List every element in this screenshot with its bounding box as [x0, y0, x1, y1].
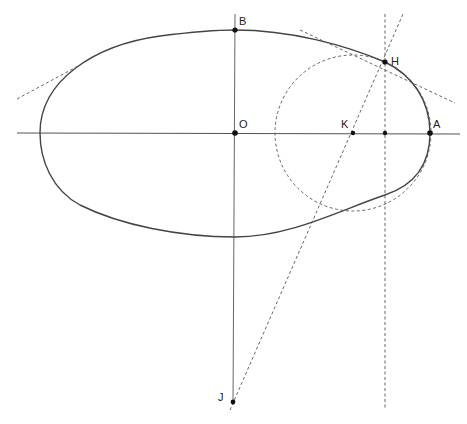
- point-B: [232, 27, 237, 32]
- point-H: [382, 59, 387, 64]
- label-J: J: [218, 391, 224, 403]
- label-H: H: [391, 55, 399, 67]
- tangent-line-at-H: [300, 30, 455, 103]
- point-O: [232, 130, 238, 136]
- label-A: A: [433, 118, 441, 130]
- points: [231, 27, 433, 404]
- point-J: [231, 400, 236, 405]
- tangent-line-left: [17, 65, 80, 99]
- dashed-line-JKH: [230, 14, 403, 410]
- vertical-axis: [233, 14, 235, 405]
- point-A: [427, 130, 433, 136]
- label-B: B: [239, 15, 246, 27]
- horizontal-axis: [17, 133, 460, 134]
- diagram-canvas: B O K A H J: [0, 0, 467, 424]
- label-K: K: [341, 118, 349, 130]
- label-O: O: [239, 118, 248, 130]
- point-foot-of-H: [383, 131, 387, 135]
- point-K: [351, 131, 355, 135]
